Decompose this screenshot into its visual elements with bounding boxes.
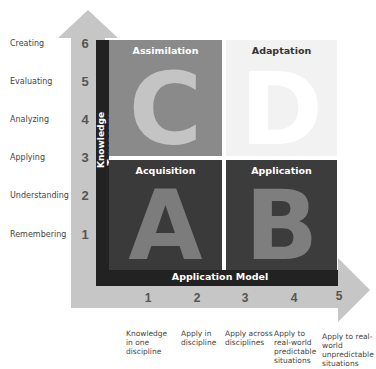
quadrant-d-letter: D <box>226 60 337 156</box>
quadrant-a-title: Acquisition <box>109 165 222 176</box>
x-num-3: 3 <box>235 291 255 305</box>
x-desc-2: Apply in discipline <box>181 329 217 347</box>
y-axis-title: Knowledge Taxonomy <box>96 90 108 190</box>
quadrant-a: A Acquisition <box>109 160 222 270</box>
quadrant-b: B Application <box>226 160 337 270</box>
x-desc-4: Apply to real-world predictable situatio… <box>274 329 318 365</box>
x-num-1: 1 <box>138 291 158 305</box>
y-num-4: 4 <box>79 112 91 127</box>
y-num-5: 5 <box>79 74 91 89</box>
y-num-1: 1 <box>79 227 91 242</box>
quadrant-d-title: Adaptation <box>226 45 337 56</box>
y-label-evaluating: Evaluating <box>10 77 52 86</box>
x-desc-1: Knowledge in one discipline <box>126 329 176 356</box>
y-num-3: 3 <box>79 150 91 165</box>
quadrant-a-letter: A <box>109 178 222 270</box>
y-label-remembering: Remembering <box>10 230 66 239</box>
y-label-applying: Applying <box>10 153 45 162</box>
quadrant-c-letter: C <box>109 60 222 156</box>
quadrant-d: D Adaptation <box>226 40 337 156</box>
quadrant-c-title: Assimilation <box>109 45 222 56</box>
y-num-6: 6 <box>79 36 91 51</box>
x-num-4: 4 <box>284 291 304 305</box>
quadrant-b-title: Application <box>226 165 337 176</box>
x-num-5: 5 <box>329 289 349 303</box>
x-axis-title: Application Model <box>150 271 290 282</box>
quadrant-b-letter: B <box>226 178 337 270</box>
x-num-2: 2 <box>187 291 207 305</box>
quadrant-c: C Assimilation <box>109 40 222 156</box>
y-label-understanding: Understanding <box>10 191 69 200</box>
y-num-2: 2 <box>79 188 91 203</box>
y-label-creating: Creating <box>10 39 44 48</box>
y-label-analyzing: Analyzing <box>10 115 49 124</box>
x-desc-5: Apply to real-world unpredictable situat… <box>322 332 376 368</box>
x-desc-3: Apply across disciplines <box>225 329 273 347</box>
